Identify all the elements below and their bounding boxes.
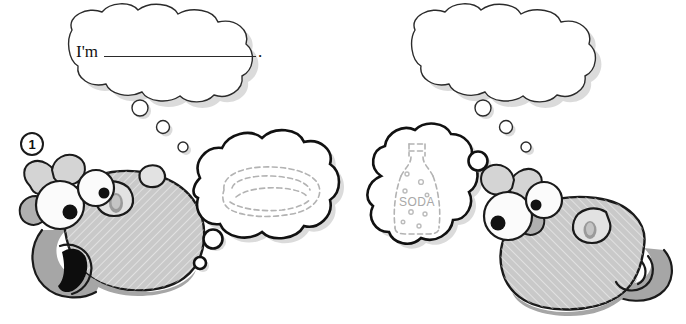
thought-bubble-1: [194, 130, 344, 272]
trail-dot-large: [475, 100, 491, 116]
panel-1: 1 I'm .: [0, 0, 343, 324]
worksheet-canvas: 1 I'm .: [0, 0, 686, 324]
eye-left-2: [526, 182, 562, 218]
thought-cloud-1: [194, 130, 339, 238]
thought-bubble-2: SODA: [367, 124, 502, 249]
eye-right-2: [484, 192, 532, 240]
prompt-period: .: [258, 42, 262, 62]
thought-trail-dot-small-1: [194, 257, 206, 269]
panel-number-label: 1: [28, 138, 35, 151]
eye-right-1: [78, 170, 114, 206]
trail-dot-medium: [500, 121, 513, 134]
panel-2-artwork: SODA: [343, 0, 686, 324]
trail-dot-small: [521, 142, 531, 152]
answer-blank-1[interactable]: [104, 43, 256, 57]
trail-dot-medium: [157, 121, 170, 134]
trail-dot-large: [132, 100, 148, 116]
prompt-line-1: I'm .: [76, 42, 262, 62]
panel-number-1: 1: [20, 132, 44, 156]
speech-bubble-trail-1: [132, 100, 191, 155]
eye-left-1: [36, 181, 84, 229]
speech-bubble-trail-2: [475, 100, 534, 155]
character-2: [476, 165, 672, 324]
panel-2: SODA: [343, 0, 686, 324]
soda-label: SODA: [399, 195, 435, 209]
thought-trail-dot-large-2: [469, 152, 488, 171]
trail-dot-small: [178, 142, 188, 152]
prompt-lead-text: I'm: [76, 42, 98, 62]
thought-trail-dot-large-1: [204, 230, 223, 249]
